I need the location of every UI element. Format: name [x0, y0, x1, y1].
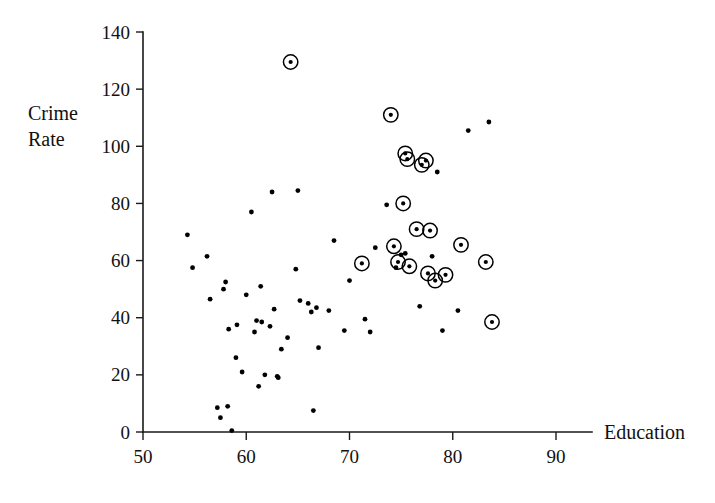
highlighted-data-point: [423, 223, 437, 237]
data-point: [259, 320, 264, 325]
data-point: [221, 287, 226, 292]
y-tick-label: 120: [102, 79, 131, 100]
y-tick-label: 140: [102, 22, 131, 43]
plot-canvas: 0204060801001201405060708090 EducationCr…: [0, 0, 715, 503]
data-point: [403, 251, 408, 256]
data-point: [226, 327, 231, 332]
x-tick-label: 70: [340, 446, 359, 467]
y-tick-label: 60: [111, 250, 130, 271]
data-point: [208, 297, 213, 302]
data-point: [306, 301, 311, 306]
x-tick-label: 90: [547, 446, 566, 467]
data-point: [229, 428, 234, 433]
data-dot: [428, 228, 432, 232]
data-point: [293, 267, 298, 272]
data-point: [347, 278, 352, 283]
data-point: [486, 120, 491, 125]
data-dot: [415, 227, 419, 231]
data-point: [254, 318, 259, 323]
data-point: [295, 188, 300, 193]
data-point: [205, 254, 210, 259]
data-point: [363, 317, 368, 322]
data-point: [262, 372, 267, 377]
data-point: [244, 292, 249, 297]
data-point: [368, 330, 373, 335]
y-tick-label: 20: [111, 364, 130, 385]
data-point: [225, 404, 230, 409]
data-point: [466, 128, 471, 133]
y-tick-label: 100: [102, 136, 131, 157]
highlighted-data-point: [454, 238, 468, 252]
data-point: [276, 375, 281, 380]
data-point: [258, 284, 263, 289]
data-points-layer: [185, 55, 499, 433]
data-point: [435, 170, 440, 175]
data-point: [373, 245, 378, 250]
highlighted-data-point: [485, 315, 499, 329]
data-point: [384, 202, 389, 207]
data-point: [298, 298, 303, 303]
x-tick-label: 60: [237, 446, 256, 467]
highlighted-data-point: [409, 222, 423, 236]
x-tick-label: 50: [134, 446, 153, 467]
data-dot: [407, 264, 411, 268]
data-dot: [405, 157, 409, 161]
data-point: [316, 345, 321, 350]
series-1: [283, 55, 499, 329]
data-dot: [401, 201, 405, 205]
scatter-chart-figure: 0204060801001201405060708090 EducationCr…: [0, 0, 715, 503]
data-point: [272, 307, 277, 312]
data-dot: [392, 244, 396, 248]
data-point: [223, 280, 228, 285]
y-tick-label: 0: [121, 422, 131, 443]
data-point: [332, 238, 337, 243]
data-point: [256, 384, 261, 389]
y-tick-label: 80: [111, 193, 130, 214]
highlighted-data-point: [479, 255, 493, 269]
data-point: [249, 210, 254, 215]
data-point: [430, 254, 435, 259]
highlighted-data-point: [400, 152, 414, 166]
data-point: [234, 355, 239, 360]
data-dot: [433, 278, 437, 282]
data-point: [185, 232, 190, 237]
data-point: [456, 308, 461, 313]
tick-labels-layer: 0204060801001201405060708090: [102, 22, 566, 468]
data-point: [279, 347, 284, 352]
highlighted-data-point: [396, 196, 410, 210]
data-dot: [424, 158, 428, 162]
data-point: [215, 405, 220, 410]
y-axis-title-line2: Rate: [28, 128, 65, 150]
data-dot: [389, 113, 393, 117]
highlighted-data-point: [387, 239, 401, 253]
data-dot: [484, 260, 488, 264]
data-point: [309, 310, 314, 315]
data-point: [252, 330, 257, 335]
data-dot: [360, 261, 364, 265]
data-dot: [443, 273, 447, 277]
data-dot: [396, 260, 400, 264]
data-point: [311, 408, 316, 413]
data-point: [285, 335, 290, 340]
highlighted-data-point: [384, 108, 398, 122]
data-point: [326, 308, 331, 313]
axes-layer: [143, 32, 592, 432]
y-axis-title-line1: Crime: [28, 102, 78, 124]
ticks-layer: [136, 32, 556, 440]
x-axis-title: Education: [604, 421, 685, 443]
data-point: [417, 304, 422, 309]
data-dot: [459, 243, 463, 247]
y-tick-label: 40: [111, 307, 130, 328]
data-point: [190, 265, 195, 270]
data-point: [314, 305, 319, 310]
data-dot: [289, 60, 293, 64]
data-point: [240, 370, 245, 375]
data-point: [235, 322, 240, 327]
data-point: [270, 190, 275, 195]
highlighted-data-point: [283, 55, 297, 69]
data-dot: [490, 320, 494, 324]
data-point: [218, 415, 223, 420]
data-point: [342, 328, 347, 333]
x-tick-label: 80: [443, 446, 462, 467]
data-point: [268, 324, 273, 329]
